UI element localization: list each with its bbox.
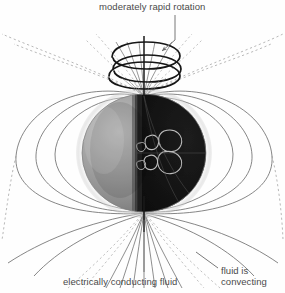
dynamo-diagram: moderately rapid rotation electrically c… [0, 0, 285, 293]
label-moderately-rapid-rotation: moderately rapid rotation [99, 1, 205, 12]
label-fluid-is-convecting: fluid isconvecting [221, 265, 267, 287]
label-convecting-line2: convecting [221, 276, 267, 287]
diagram-canvas [0, 0, 285, 293]
rotation-leader-arrow [162, 15, 175, 51]
label-convecting-line1: fluid is [221, 265, 248, 276]
label-electrically-conducting-fluid: electrically conducting fluid [63, 276, 177, 287]
